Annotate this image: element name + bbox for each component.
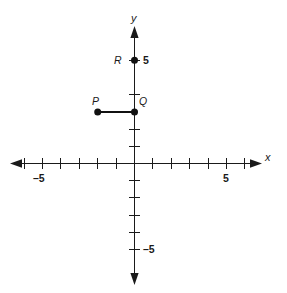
point-p-label: P bbox=[92, 96, 99, 107]
point-q-dot bbox=[131, 109, 138, 116]
y-axis-down-arrow-icon bbox=[130, 273, 138, 285]
point-r-label: R bbox=[114, 55, 122, 66]
point-r-dot bbox=[131, 57, 138, 64]
y-axis-up-arrow-icon bbox=[130, 26, 138, 38]
x-tick-label-negative-5: –5 bbox=[33, 173, 45, 184]
y-tick-label-negative-5: –5 bbox=[143, 244, 155, 255]
x-axis-right-arrow-icon bbox=[250, 159, 262, 167]
coordinate-plane-figure: x y –5 5 5 –5 P Q R bbox=[0, 0, 287, 293]
point-p-dot bbox=[94, 109, 101, 116]
x-axis-label: x bbox=[265, 152, 271, 163]
point-q-label: Q bbox=[139, 96, 147, 107]
x-axis-left-arrow-icon bbox=[10, 159, 22, 167]
y-axis-label: y bbox=[131, 13, 137, 24]
x-tick-label-positive-5: 5 bbox=[223, 173, 229, 184]
y-tick-label-positive-5: 5 bbox=[143, 55, 149, 66]
